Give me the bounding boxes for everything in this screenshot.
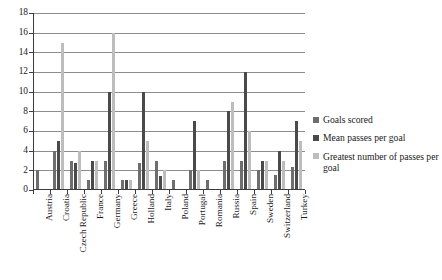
x-axis-label: Poland xyxy=(181,194,190,220)
x-axis-label: Czech Republic xyxy=(79,194,88,252)
x-axis-labels: AustriaCroatiaCzech RepublicFranceGerman… xyxy=(33,194,305,278)
y-axis-tick-label: 6 xyxy=(4,126,28,135)
x-axis-label: Greece xyxy=(130,194,139,220)
legend-item: Greatest number of passes per goal xyxy=(313,151,439,174)
legend-label: Greatest number of passes per goal xyxy=(323,151,439,174)
x-axis-label: Italy xyxy=(164,194,173,211)
legend-swatch-icon xyxy=(313,135,319,141)
y-axis-tick-label: 18 xyxy=(4,8,28,17)
y-axis-tick-label: 16 xyxy=(4,28,28,37)
chart-legend: Goals scoredMean passes per goalGreatest… xyxy=(313,114,439,181)
x-axis-label: France xyxy=(96,194,105,219)
y-axis-tick-label: 8 xyxy=(4,107,28,116)
y-axis-tick-label: 10 xyxy=(4,87,28,96)
legend-item: Mean passes per goal xyxy=(313,132,439,143)
y-axis-tick-label: 0 xyxy=(4,185,28,194)
x-axis-label: Austria xyxy=(45,194,54,221)
bar-chart: 024681012141618 AustriaCroatiaCzech Repu… xyxy=(0,0,442,280)
x-axis-label: Portugal xyxy=(198,194,207,225)
y-axis-tick-label: 14 xyxy=(4,48,28,57)
y-axis-tick-label: 4 xyxy=(4,146,28,155)
legend-label: Goals scored xyxy=(323,114,373,125)
x-axis-label: Switzerland xyxy=(283,194,292,238)
legend-swatch-icon xyxy=(313,153,319,159)
x-axis-label: Holland xyxy=(147,194,156,224)
x-axis-label: Sweden xyxy=(266,194,275,223)
y-axis-tick-label: 2 xyxy=(4,166,28,175)
x-axis-label: Spain xyxy=(249,194,258,215)
x-axis-label: Turkey xyxy=(300,194,309,220)
y-axis-labels: 024681012141618 xyxy=(0,13,28,190)
x-axis-label: Germany xyxy=(113,194,122,228)
x-axis-label: Romania xyxy=(215,194,224,227)
legend-swatch-icon xyxy=(313,117,319,123)
plot-frame xyxy=(33,13,305,190)
x-axis-label: Croatia xyxy=(62,194,71,221)
y-axis-tick-label: 12 xyxy=(4,67,28,76)
legend-label: Mean passes per goal xyxy=(323,132,405,143)
legend-item: Goals scored xyxy=(313,114,439,125)
plot-area xyxy=(33,13,305,190)
x-axis-label: Russia xyxy=(232,194,241,219)
